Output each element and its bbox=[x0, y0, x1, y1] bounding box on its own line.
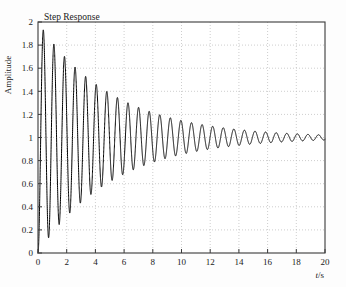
x-tick-label: 12 bbox=[206, 257, 215, 267]
y-tick-label: 1.6 bbox=[22, 63, 34, 73]
x-tick-label: 18 bbox=[292, 257, 302, 267]
y-axis-label: Amplitude bbox=[3, 56, 13, 95]
y-tick-label: 0.6 bbox=[22, 179, 34, 189]
y-tick-label: 0.4 bbox=[22, 202, 34, 212]
step-response-chart: 02468101214161820 00.20.40.60.811.21.41.… bbox=[0, 0, 346, 287]
y-tick-label: 1.4 bbox=[22, 87, 34, 97]
y-axis-tick-labels: 00.20.40.60.811.21.41.61.82 bbox=[22, 17, 34, 258]
x-tick-label: 8 bbox=[151, 257, 156, 267]
x-tick-label: 6 bbox=[122, 257, 127, 267]
y-tick-label: 1 bbox=[29, 133, 34, 143]
x-tick-label: 20 bbox=[321, 257, 331, 267]
x-tick-label: 4 bbox=[93, 257, 98, 267]
y-tick-label: 0.2 bbox=[22, 225, 33, 235]
chart-title: Step Response bbox=[44, 12, 100, 22]
figure-canvas: 02468101214161820 00.20.40.60.811.21.41.… bbox=[0, 0, 346, 287]
x-tick-label: 16 bbox=[263, 257, 273, 267]
x-tick-label: 0 bbox=[36, 257, 41, 267]
x-tick-label: 10 bbox=[177, 257, 187, 267]
y-tick-label: 1.8 bbox=[22, 40, 34, 50]
x-axis-label: t/s bbox=[315, 270, 324, 280]
x-tick-label: 2 bbox=[64, 257, 69, 267]
y-tick-label: 0 bbox=[29, 248, 34, 258]
x-axis-tick-labels: 02468101214161820 bbox=[36, 257, 330, 267]
x-tick-label: 14 bbox=[234, 257, 244, 267]
y-tick-label: 1.2 bbox=[22, 110, 33, 120]
y-tick-label: 0.8 bbox=[22, 156, 34, 166]
y-tick-label: 2 bbox=[29, 17, 34, 27]
